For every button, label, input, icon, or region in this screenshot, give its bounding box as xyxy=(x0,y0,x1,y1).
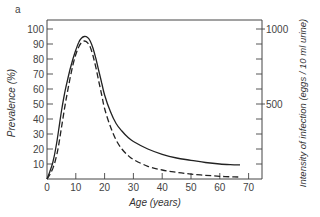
x-axis-label: Age (years) xyxy=(128,197,181,208)
y-tick-label: 50 xyxy=(33,99,45,110)
x-tick-label: 50 xyxy=(185,182,197,193)
intensity-line xyxy=(47,41,240,179)
y-tick-label: 40 xyxy=(33,114,45,125)
left-y-axis: 102030405060708090100 xyxy=(27,24,53,170)
series-lines xyxy=(47,36,240,179)
y-axis-label: Prevalence (%) xyxy=(6,69,17,137)
x-tick-label: 40 xyxy=(157,182,169,193)
x-axis: 010203040506070 xyxy=(44,173,254,193)
y-tick-label: 30 xyxy=(33,129,45,140)
y-tick-label: 20 xyxy=(33,144,45,155)
x-tick-label: 10 xyxy=(70,182,82,193)
y-tick-label: 90 xyxy=(33,39,45,50)
x-tick-label: 20 xyxy=(99,182,111,193)
x-tick-label: 0 xyxy=(44,182,50,193)
prevalence-line xyxy=(47,36,240,179)
x-tick-label: 70 xyxy=(243,182,255,193)
y-tick-label: 60 xyxy=(33,84,45,95)
y-tick-label: 80 xyxy=(33,54,45,65)
y2-tick-label: 500 xyxy=(266,99,283,110)
plot-frame xyxy=(47,20,262,179)
y2-tick-label: 1000 xyxy=(266,24,289,35)
x-tick-label: 30 xyxy=(128,182,140,193)
y2-axis-label: Intensity of infection (eggs / 10 ml uri… xyxy=(297,19,308,187)
y-tick-label: 70 xyxy=(33,69,45,80)
x-tick-label: 60 xyxy=(214,182,226,193)
right-y-axis: 5001000 xyxy=(256,24,289,165)
y-tick-label: 10 xyxy=(33,159,45,170)
dual-axis-line-chart: 102030405060708090100 5001000 0102030405… xyxy=(0,0,320,217)
y-tick-label: 100 xyxy=(27,24,44,35)
